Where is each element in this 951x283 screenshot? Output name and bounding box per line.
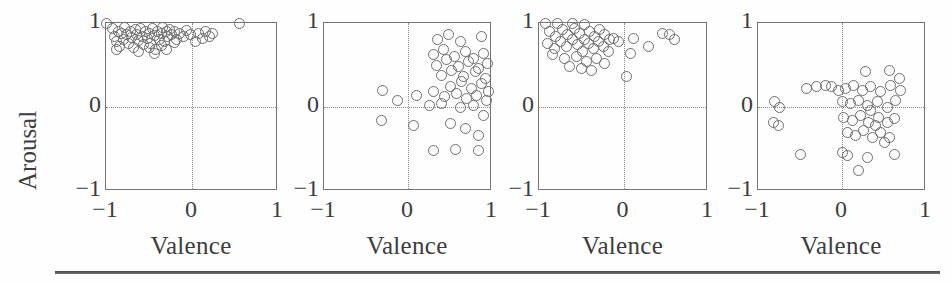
plot-area (757, 22, 925, 190)
data-point (884, 65, 895, 76)
x-tick-label: 0 (603, 196, 643, 223)
data-point (411, 90, 422, 101)
data-point (470, 66, 481, 77)
data-point (460, 123, 471, 134)
data-point (603, 46, 614, 57)
data-point (895, 85, 906, 96)
data-point (890, 95, 901, 106)
x-axis-label: Valence (757, 232, 925, 260)
data-point (445, 118, 456, 129)
data-point (169, 37, 180, 48)
x-tick-label: 0 (387, 196, 427, 223)
data-point (441, 54, 452, 65)
x-tick-label: 1 (905, 196, 945, 223)
data-point (377, 85, 388, 96)
data-point (144, 42, 155, 53)
data-point (483, 86, 494, 97)
x-tick-label: −1 (85, 196, 125, 223)
data-point (376, 115, 387, 126)
x-axis-label: Valence (105, 232, 277, 260)
data-point (860, 66, 871, 77)
y-tick-label: 1 (498, 7, 534, 34)
zero-vertical-gridline (624, 23, 625, 189)
data-point (628, 33, 639, 44)
data-point (889, 113, 900, 124)
x-tick-label: −1 (518, 196, 558, 223)
data-point (547, 49, 558, 60)
zero-horizontal-gridline (539, 107, 706, 108)
y-tick-label: 0 (65, 91, 101, 118)
data-point (842, 150, 853, 161)
y-tick-label: 0 (717, 91, 753, 118)
data-point (865, 105, 876, 116)
plot-area (323, 22, 491, 190)
data-point (207, 28, 218, 39)
data-point (408, 120, 419, 131)
data-point (428, 49, 439, 60)
zero-vertical-gridline (408, 23, 409, 189)
data-point (476, 31, 487, 42)
data-point (564, 61, 575, 72)
data-point (599, 58, 610, 69)
data-point (443, 29, 454, 40)
y-tick-label: 1 (65, 7, 101, 34)
bottom-rule (55, 271, 940, 274)
data-point (234, 18, 245, 29)
x-tick-label: 0 (171, 196, 211, 223)
x-tick-label: −1 (737, 196, 777, 223)
data-point (576, 63, 587, 74)
x-axis-label: Valence (323, 232, 491, 260)
data-point (621, 71, 632, 82)
data-point (473, 145, 484, 156)
data-point (473, 130, 484, 141)
x-tick-label: 0 (821, 196, 861, 223)
data-point (643, 41, 654, 52)
data-point (392, 95, 403, 106)
data-point (428, 86, 439, 97)
data-point (156, 40, 167, 51)
x-axis-label: Valence (538, 232, 707, 260)
plot-area (538, 22, 707, 190)
data-point (478, 110, 489, 121)
data-point (424, 100, 435, 111)
y-tick-label: 1 (283, 7, 319, 34)
y-tick-label: 0 (498, 91, 534, 118)
zero-horizontal-gridline (106, 107, 276, 108)
data-point (455, 102, 466, 113)
data-point (870, 120, 881, 131)
data-point (468, 100, 479, 111)
data-point (625, 48, 636, 59)
data-point (773, 120, 784, 131)
data-point (133, 46, 144, 57)
data-point (774, 102, 785, 113)
data-point (853, 165, 864, 176)
data-point (482, 58, 493, 69)
data-point (879, 137, 890, 148)
data-point (862, 152, 873, 163)
data-point (795, 149, 806, 160)
data-point (450, 144, 461, 155)
x-tick-label: −1 (303, 196, 343, 223)
scatter-figure: Arousal −101−101Valence−101−101Valence−1… (0, 0, 951, 283)
y-tick-label: 0 (283, 91, 319, 118)
data-point (586, 65, 597, 76)
data-point (889, 149, 900, 160)
y-tick-label: 1 (717, 7, 753, 34)
y-axis-label: Arousal (14, 111, 42, 190)
data-point (111, 44, 122, 55)
data-point (613, 36, 624, 47)
data-point (428, 145, 439, 156)
plot-area (105, 22, 277, 190)
data-point (669, 34, 680, 45)
data-point (446, 65, 457, 76)
zero-vertical-gridline (192, 23, 193, 189)
